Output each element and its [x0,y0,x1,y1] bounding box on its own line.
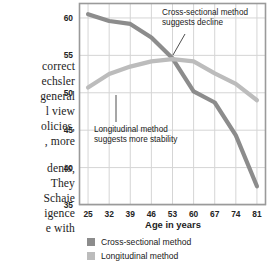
legend-label: Cross-sectional method [101,237,191,247]
annotation-longitudinal: Longitudinal method suggests more stabil… [94,125,177,145]
legend-item: Cross-sectional method [87,235,271,249]
chart-gridlines [79,3,266,205]
x-axis-tick-label: 46 [142,209,160,219]
legend-swatch-icon [87,252,95,260]
x-axis-tick-label: 60 [185,209,203,219]
y-axis-tick-label: 35 [55,200,73,210]
x-axis-tick-label: 25 [79,209,97,219]
x-axis-tick-label: 67 [206,209,224,219]
x-axis-tick-label: 39 [121,209,139,219]
legend-label: Longitudinal method [101,251,178,261]
x-axis-tick-label: 53 [164,209,182,219]
y-axis-tick-label: 50 [55,88,73,98]
x-axis-tick-label: 81 [248,209,266,219]
legend-swatch-icon [87,238,95,246]
y-axis-tick-label: 45 [55,125,73,135]
x-axis-title: Age in years [79,219,267,230]
annotation-cross-sectional: Cross-sectional method suggests decline [162,8,248,28]
legend-item: Longitudinal method [87,249,271,263]
annotation-leader-lines [116,34,185,122]
x-axis-tick-label: 32 [100,209,118,219]
y-axis-tick-label: 40 [55,163,73,173]
line-chart-figure: Cross-sectional method suggests decline … [0,0,271,264]
y-axis-tick-label: 55 [55,50,73,60]
x-axis-tick-label: 74 [227,209,245,219]
y-axis-tick-label: 60 [55,13,73,23]
chart-legend: Cross-sectional methodLongitudinal metho… [87,235,271,263]
